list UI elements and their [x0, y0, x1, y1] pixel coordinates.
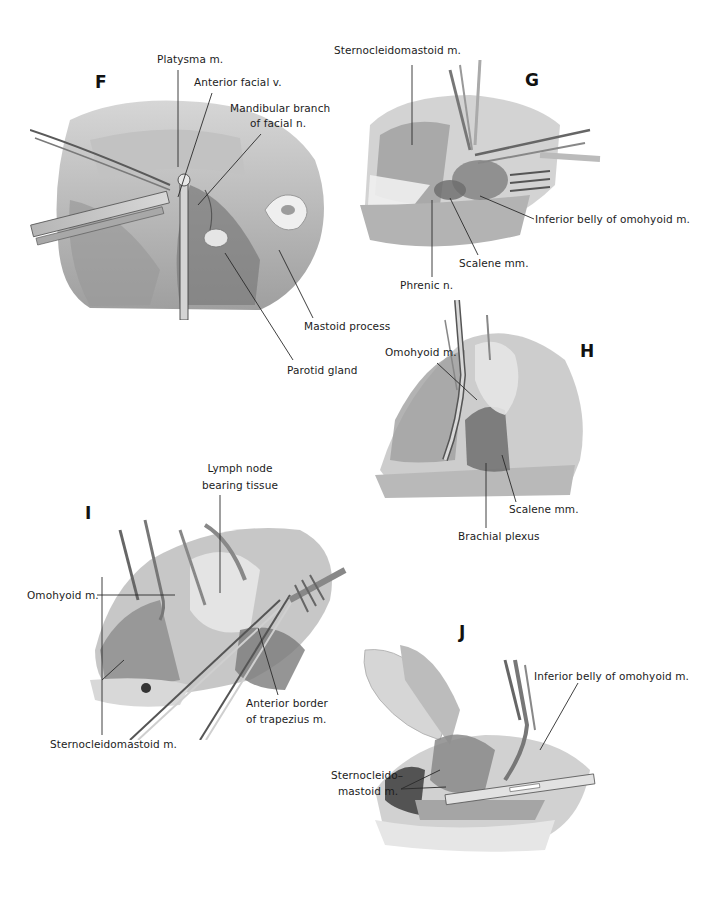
figure-page: F Platysma m. Anterior facial v. Mandibu… [0, 0, 720, 900]
label-mandibular-branch-line2: of facial n. [250, 117, 306, 130]
label-sternocleidomastoid-g: Sternocleidomastoid m. [334, 44, 461, 57]
label-phrenic-n: Phrenic n. [400, 279, 453, 292]
label-anterior-facial-v: Anterior facial v. [194, 76, 282, 89]
label-scalene-g: Scalene mm. [459, 257, 529, 270]
panel-letter-h: H [580, 341, 594, 361]
label-inferior-belly-omohyoid-j: Inferior belly of omohyoid m. [534, 670, 689, 683]
label-scalene-h: Scalene mm. [509, 503, 579, 516]
label-lymph-node-line2: bearing tissue [193, 479, 287, 492]
label-anterior-border-line1: Anterior border [246, 697, 328, 710]
panel-letter-i: I [85, 503, 91, 523]
label-parotid-gland: Parotid gland [287, 364, 357, 377]
label-brachial-plexus: Brachial plexus [458, 530, 540, 543]
label-scm-j-line2: mastoid m. [338, 785, 398, 798]
panel-h-illustration [375, 300, 605, 500]
label-omohyoid-h: Omohyoid m. [385, 346, 457, 359]
panel-letter-f: F [95, 72, 107, 92]
label-omohyoid-i: Omohyoid m. [27, 589, 99, 602]
label-scm-j-line1: Sternocleido– [331, 769, 403, 782]
label-lymph-node-line1: Lymph node [200, 462, 280, 475]
label-anterior-border-line2: of trapezius m. [246, 713, 326, 726]
label-sternocleidomastoid-i: Sternocleidomastoid m. [50, 738, 177, 751]
panel-letter-j: J [459, 622, 465, 642]
label-platysma: Platysma m. [157, 53, 223, 66]
panel-letter-g: G [525, 70, 539, 90]
panel-h [375, 300, 605, 500]
label-inferior-belly-omohyoid-g: Inferior belly of omohyoid m. [535, 213, 690, 226]
label-mandibular-branch-line1: Mandibular branch [230, 102, 330, 115]
